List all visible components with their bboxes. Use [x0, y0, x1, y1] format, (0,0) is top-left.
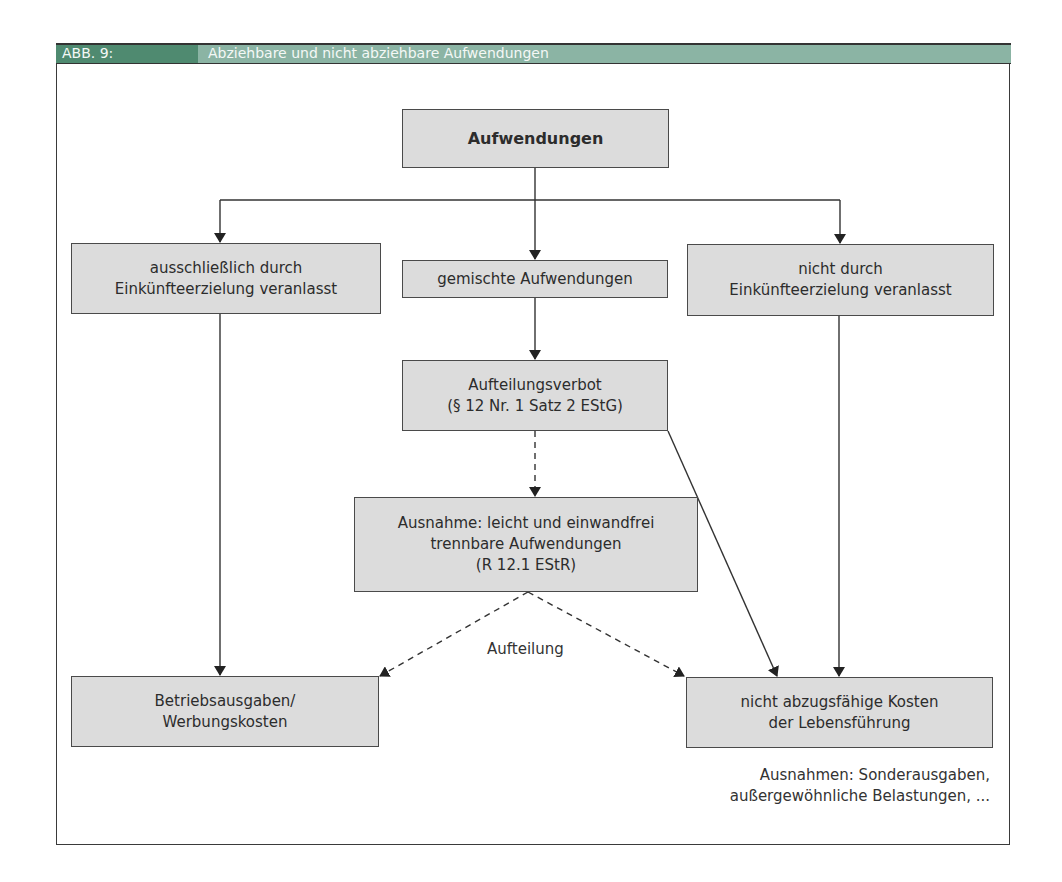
note-line: Ausnahmen: Sonderausgaben,	[730, 765, 990, 786]
node-label-line: nicht abzugsfähige Kosten	[741, 692, 939, 713]
node-label-line: nicht durch	[729, 259, 952, 280]
exceptions-note: Ausnahmen: Sonderausgaben, außergewöhnli…	[730, 765, 990, 807]
node-aufwendungen: Aufwendungen	[402, 109, 669, 168]
node-mixed-expenses: gemischte Aufwendungen	[402, 260, 668, 298]
node-not-income: nicht durch Einkünfteerzielung veranlass…	[687, 244, 994, 316]
node-exception: Ausnahme: leicht und einwandfrei trennba…	[354, 497, 698, 592]
note-line: außergewöhnliche Belastungen, ...	[730, 786, 990, 807]
node-label-line: (R 12.1 EStR)	[398, 555, 655, 576]
node-exclusively-income: ausschließlich durch Einkünfteerzielung …	[71, 243, 381, 314]
node-split-ban: Aufteilungsverbot (§ 12 Nr. 1 Satz 2 ESt…	[402, 360, 668, 431]
split-label: Aufteilung	[487, 639, 564, 660]
node-label-line: trennbare Aufwendungen	[398, 534, 655, 555]
node-label-line: Einkünfteerzielung veranlasst	[729, 280, 952, 301]
node-label-line: Ausnahme: leicht und einwandfrei	[398, 513, 655, 534]
node-label-line: (§ 12 Nr. 1 Satz 2 EStG)	[447, 396, 623, 417]
node-label-line: Einkünfteerzielung veranlasst	[115, 279, 338, 300]
node-label-line: ausschließlich durch	[115, 258, 338, 279]
node-label-line: Aufteilungsverbot	[447, 375, 623, 396]
node-label-line: der Lebensführung	[741, 713, 939, 734]
node-label-line: Werbungskosten	[155, 712, 296, 733]
node-label: gemischte Aufwendungen	[437, 269, 633, 290]
node-business-expenses: Betriebsausgaben/ Werbungskosten	[71, 676, 379, 747]
node-living-costs: nicht abzugsfähige Kosten der Lebensführ…	[686, 677, 993, 748]
node-label-line: Betriebsausgaben/	[155, 691, 296, 712]
node-label: Aufwendungen	[468, 128, 604, 149]
